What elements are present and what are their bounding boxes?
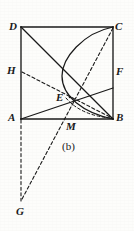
label-B: B [116,112,123,123]
point-markers [69,96,72,99]
figure-canvas [0,0,134,231]
solid-segments [21,27,113,119]
label-F: F [116,66,123,77]
label-M: M [66,121,76,132]
label-C: C [115,21,122,32]
segment-DB [21,27,113,119]
label-D: D [9,21,17,32]
label-E: E [56,92,63,103]
geometry-figure: D C H F E A B M G (b) [0,0,134,231]
figure-caption: (b) [62,141,75,152]
label-A: A [8,112,15,123]
label-G: G [16,206,24,217]
label-H: H [7,65,16,76]
segment-HB [22,72,112,118]
point-E-marker [69,96,72,99]
